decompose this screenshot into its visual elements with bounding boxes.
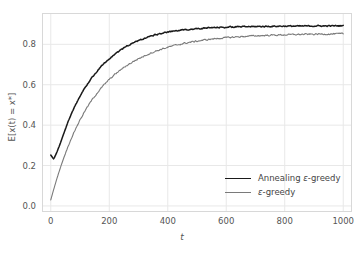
legend-item-epsilon-greedy[interactable]: ε-greedy [225, 185, 350, 199]
chart-legend: Annealing ε-greedy ε-greedy [225, 171, 350, 199]
x-tick-label: 0 [48, 216, 53, 226]
y-tick-label: 0.0 [4, 201, 36, 211]
x-axis-label: t [0, 232, 364, 242]
y-tick-label: 0.8 [4, 39, 36, 49]
y-axis-label: E[x(t) = x*] [7, 67, 17, 167]
x-tick-label: 400 [160, 216, 176, 226]
x-tick-label: 800 [277, 216, 293, 226]
legend-swatch-epsilon-greedy [225, 192, 251, 193]
legend-label-epsilon-greedy: ε-greedy [258, 187, 295, 197]
x-tick-label: 1000 [332, 216, 354, 226]
x-tick-label: 200 [101, 216, 117, 226]
legend-swatch-annealing [225, 178, 251, 179]
x-tick-label: 600 [218, 216, 234, 226]
chart-figure: 020040060080010000.00.20.40.60.8 E[x(t) … [0, 0, 364, 253]
legend-item-annealing-epsilon-greedy[interactable]: Annealing ε-greedy [225, 171, 350, 185]
legend-label-annealing: Annealing ε-greedy [258, 173, 341, 183]
